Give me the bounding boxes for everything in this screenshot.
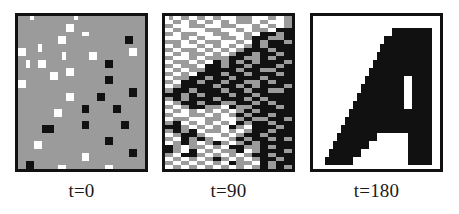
panel-label-t0: t=0: [15, 176, 148, 206]
labels-row: t=0 t=90 t=180: [0, 176, 459, 214]
grid-canvas-t90: [165, 16, 292, 169]
panel-label-t90: t=90: [162, 176, 295, 206]
grid-canvas-t0: [18, 16, 145, 169]
panels-row: [0, 0, 459, 175]
panel-t90: [162, 13, 295, 172]
grid-canvas-t180: [313, 16, 440, 169]
panel-t0: [15, 13, 148, 172]
figure-container: t=0 t=90 t=180: [0, 0, 459, 214]
panel-label-t180: t=180: [310, 176, 443, 206]
panel-t180: [310, 13, 443, 172]
